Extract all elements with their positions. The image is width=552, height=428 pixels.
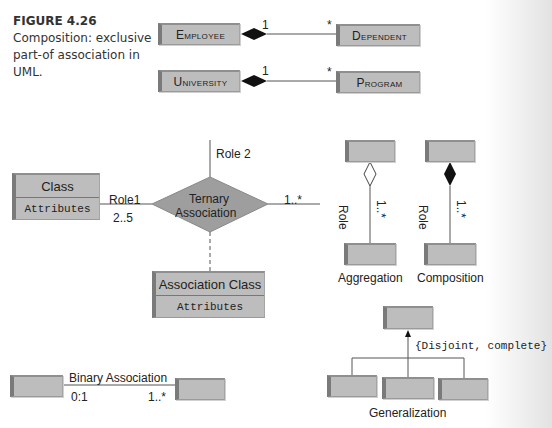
ternary-label-line2: Association <box>175 206 236 220</box>
class-box-employee: Employee <box>158 23 240 45</box>
aggregation-diamond-icon <box>364 162 376 186</box>
multiplicity-label: 1 <box>262 64 269 78</box>
binary-right-multiplicity: 1..* <box>148 390 166 404</box>
multiplicity-label: * <box>327 65 332 79</box>
multiplicity-label: * <box>327 18 332 32</box>
multiplicity-label: 1 <box>262 18 269 32</box>
composition-whole-box <box>425 140 475 162</box>
composition-label: Composition <box>417 271 484 285</box>
right-multiplicity: 1..* <box>284 193 302 207</box>
generalization-constraint: {Disjoint, complete} <box>415 340 547 352</box>
composition-multiplicity: 1..* <box>454 200 468 218</box>
binary-left-multiplicity: 0:1 <box>71 390 88 404</box>
class-box-dependent: Dependent <box>336 24 420 46</box>
aggregation-label: Aggregation <box>338 271 403 285</box>
association-class-box: Association Class Attributes <box>152 271 265 318</box>
binary-right-box <box>175 378 225 400</box>
role1-multiplicity: 2..5 <box>113 211 133 225</box>
generalization-arrow-icon <box>405 330 411 337</box>
generalization-superclass-box <box>383 306 433 329</box>
composition-diamond-icon <box>444 162 456 186</box>
role2-label: Role 2 <box>216 147 251 161</box>
composition-part-box <box>424 243 476 265</box>
aggregation-multiplicity: 1..* <box>374 200 388 218</box>
generalization-subclass-box <box>438 378 488 400</box>
aggregation-part-box <box>344 243 396 265</box>
association-class-name: Association Class <box>156 273 264 296</box>
class-name: Class <box>16 175 99 198</box>
class-box-university: University <box>158 70 240 92</box>
binary-left-box <box>10 375 63 397</box>
class-box-program: Program <box>336 71 420 93</box>
aggregation-role-label: Role <box>336 205 350 230</box>
class-box: Class Attributes <box>12 173 100 220</box>
generalization-subclass-box <box>327 375 377 397</box>
generalization-subclass-box <box>382 377 434 399</box>
aggregation-whole-box <box>345 140 395 162</box>
role1-label: Role1 <box>109 193 140 207</box>
class-attributes: Attributes <box>16 198 99 220</box>
generalization-label: Generalization <box>369 406 446 420</box>
ternary-label-line1: Ternary <box>189 192 229 206</box>
association-class-attributes: Attributes <box>156 296 264 318</box>
composition-role-label: Role <box>416 205 430 230</box>
binary-association-label: Binary Association <box>69 371 167 385</box>
